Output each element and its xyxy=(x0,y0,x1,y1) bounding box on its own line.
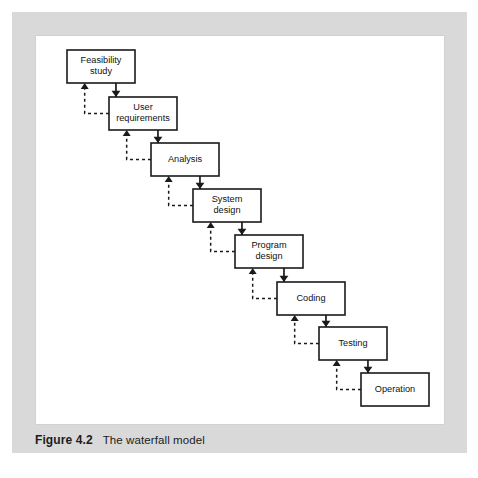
stage-node-testing[interactable]: Testing xyxy=(319,327,387,360)
arrow-head-up-icon xyxy=(123,130,131,136)
arrow-head-up-icon xyxy=(207,222,215,228)
arrow-head-down-icon xyxy=(280,276,289,282)
figure-caption: Figure 4.2The waterfall model xyxy=(35,430,455,450)
stage-node-system-design[interactable]: Systemdesign xyxy=(193,189,261,222)
arrow-head-up-icon xyxy=(249,268,257,274)
stage-label-system-design: Systemdesign xyxy=(212,195,243,216)
feedback-arrow-coding-to-program-design xyxy=(249,268,277,299)
nodes-layer: FeasibilitystudyUserrequirementsAnalysis… xyxy=(67,50,429,406)
feedback-arrow-program-design-to-system-design xyxy=(207,222,235,252)
arrow-head-up-icon xyxy=(333,360,341,366)
flow-arrow-system-design-to-program-design xyxy=(238,222,247,235)
caption-text: The waterfall model xyxy=(103,434,205,446)
flow-arrow-program-design-to-coding xyxy=(280,268,289,282)
stage-node-operation[interactable]: Operation xyxy=(361,373,429,406)
figure-root: FeasibilitystudyUserrequirementsAnalysis… xyxy=(0,0,478,478)
feedback-arrow-user-requirements-to-feasibility-study xyxy=(81,83,109,114)
feedback-arrow-testing-to-coding xyxy=(291,315,319,344)
flow-arrow-testing-to-operation xyxy=(364,360,373,373)
stage-node-coding[interactable]: Coding xyxy=(277,282,345,315)
stage-label-analysis: Analysis xyxy=(168,154,203,164)
waterfall-diagram: FeasibilitystudyUserrequirementsAnalysis… xyxy=(36,36,444,424)
arrow-head-down-icon xyxy=(196,183,205,189)
arrow-head-down-icon xyxy=(112,91,121,97)
stage-label-operation: Operation xyxy=(375,384,415,394)
arrow-head-up-icon xyxy=(81,83,89,89)
feedback-arrow-analysis-to-user-requirements xyxy=(123,130,151,160)
flow-arrow-user-requirements-to-analysis xyxy=(154,130,163,143)
flow-arrow-analysis-to-system-design xyxy=(196,176,205,189)
stage-node-user-requirements[interactable]: Userrequirements xyxy=(109,97,177,130)
flow-arrow-feasibility-study-to-user-requirements xyxy=(112,83,121,97)
caption-number: Figure 4.2 xyxy=(35,433,93,447)
stage-label-testing: Testing xyxy=(338,338,367,348)
feedback-arrow-system-design-to-analysis xyxy=(165,176,193,206)
arrow-head-up-icon xyxy=(165,176,173,182)
arrow-head-down-icon xyxy=(154,137,163,143)
stage-label-program-design: Programdesign xyxy=(251,241,287,262)
stage-label-coding: Coding xyxy=(296,293,325,303)
arrow-head-down-icon xyxy=(238,229,247,235)
arrow-head-down-icon xyxy=(364,367,373,373)
flow-arrow-coding-to-testing xyxy=(322,315,331,327)
stage-node-analysis[interactable]: Analysis xyxy=(151,143,219,176)
arrow-head-down-icon xyxy=(322,321,331,327)
diagram-panel: FeasibilitystudyUserrequirementsAnalysis… xyxy=(35,35,445,425)
feedback-arrow-operation-to-testing xyxy=(333,360,361,390)
arrow-head-up-icon xyxy=(291,315,299,321)
stage-node-program-design[interactable]: Programdesign xyxy=(235,235,303,268)
stage-node-feasibility-study[interactable]: Feasibilitystudy xyxy=(67,50,135,83)
